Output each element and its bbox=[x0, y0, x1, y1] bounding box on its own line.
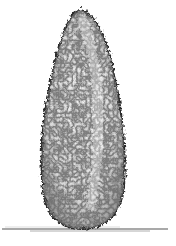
shrub-shape bbox=[42, 10, 125, 229]
shrub-sketch bbox=[0, 0, 176, 246]
